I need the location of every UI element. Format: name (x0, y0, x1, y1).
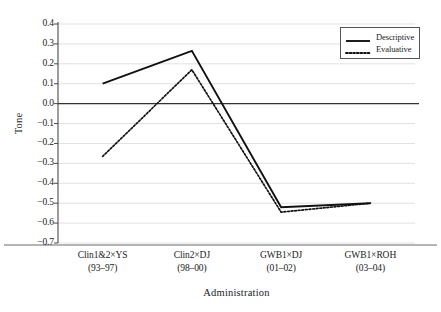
x-axis-tick-label-years: (93–97) (58, 262, 147, 275)
legend-label: Evaluative (376, 44, 411, 54)
y-axis-tick-label: −0.1 (22, 119, 54, 129)
x-axis-tick-label-years: (03–04) (326, 262, 415, 275)
x-axis-tick-label: GWB1×DJ(01–02) (237, 249, 326, 283)
legend-swatch-dotted-icon (345, 44, 371, 54)
y-axis-title: Tone (13, 94, 24, 154)
y-axis-tick-label: 0.2 (22, 59, 54, 69)
chart-figure: 0.40.30.20.10.0−0.1−0.2−0.3−0.4−0.5−0.6−… (0, 0, 441, 312)
legend-swatch-solid-icon (345, 32, 371, 42)
y-axis-tick-label: −0.2 (22, 138, 54, 148)
legend-item-descriptive: Descriptive (345, 31, 414, 43)
legend-label: Descriptive (376, 32, 414, 42)
y-axis-tick-label: −0.5 (22, 198, 54, 208)
x-axis-tick-label-name: Clin2×DJ (174, 250, 210, 260)
y-axis-tick-label: −0.3 (22, 158, 54, 168)
y-axis-tick-label: −0.4 (22, 178, 54, 188)
x-axis-tick-label: GWB1×ROH(03–04) (326, 249, 415, 283)
y-axis-tick-label: 0.3 (22, 39, 54, 49)
y-axis-tick-label: 0.4 (22, 19, 54, 29)
x-axis-tick-labels: Clin1&2×YS(93–97)Clin2×DJ(98–00)GWB1×DJ(… (58, 249, 415, 283)
y-axis-tick-label: 0.0 (22, 99, 54, 109)
x-axis-tick-label-name: GWB1×DJ (260, 250, 302, 260)
y-axis-tick-label: −0.6 (22, 218, 54, 228)
legend-item-evaluative: Evaluative (345, 43, 414, 55)
x-axis-tick-label: Clin2×DJ(98–00) (147, 249, 236, 283)
y-axis-tick-label: −0.7 (22, 238, 54, 248)
series-line-descriptive (103, 51, 371, 207)
chart-legend: DescriptiveEvaluative (340, 27, 420, 59)
x-axis-tick-label: Clin1&2×YS(93–97) (58, 249, 147, 283)
x-axis-tick-label-years: (01–02) (237, 262, 326, 275)
x-axis-tick-label-years: (98–00) (147, 262, 236, 275)
series-line-evaluative (103, 70, 371, 212)
x-axis-tick-label-name: Clin1&2×YS (78, 250, 128, 260)
x-axis-title: Administration (58, 287, 415, 298)
x-axis-tick-label-name: GWB1×ROH (345, 250, 397, 260)
y-axis-tick-label: 0.1 (22, 79, 54, 89)
series-lines (103, 51, 371, 212)
